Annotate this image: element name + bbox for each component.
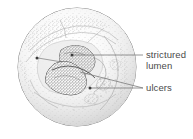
marker-dot-ulcers-primary xyxy=(89,87,92,90)
specimen-bowel-cross-section xyxy=(18,8,136,126)
label-strictured-lumen-line1: strictured xyxy=(146,49,186,60)
marker-dot-strictured-lumen xyxy=(71,54,74,57)
illustration-canvas: strictured lumen ulcers xyxy=(0,0,193,139)
annotation-labels: strictured lumen ulcers xyxy=(146,49,186,93)
label-strictured-lumen-line2: lumen xyxy=(146,60,172,71)
label-ulcers: ulcers xyxy=(146,82,172,93)
marker-dot-left xyxy=(36,57,39,60)
medical-illustration-figure: strictured lumen ulcers xyxy=(0,0,193,139)
